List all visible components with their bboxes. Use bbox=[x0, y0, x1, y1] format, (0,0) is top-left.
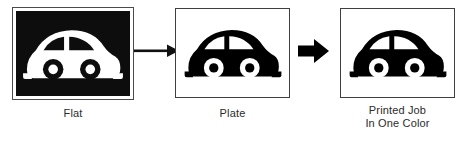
panel-flat bbox=[12, 7, 134, 100]
caption-plate: Plate bbox=[175, 107, 290, 120]
diagram-canvas: Flat Plate Printed Job In One Color bbox=[0, 0, 468, 141]
caption-flat: Flat bbox=[12, 107, 134, 120]
car-icon bbox=[21, 22, 125, 86]
plate-artwork-slot bbox=[176, 9, 289, 97]
caption-printed-job: Printed Job In One Color bbox=[335, 104, 460, 130]
flat-artwork-slot bbox=[16, 11, 130, 96]
arrow-flat-to-plate bbox=[134, 42, 180, 60]
flat-black-field bbox=[16, 11, 130, 96]
printed-job-artwork-slot bbox=[341, 9, 454, 97]
panel-printed-job bbox=[340, 8, 455, 98]
car-icon bbox=[183, 22, 283, 84]
car-icon bbox=[348, 22, 448, 84]
arrow-plate-to-printed bbox=[298, 38, 330, 64]
panel-plate bbox=[175, 8, 290, 98]
arrow-right-icon bbox=[298, 38, 330, 64]
arrow-right-icon bbox=[134, 42, 180, 60]
